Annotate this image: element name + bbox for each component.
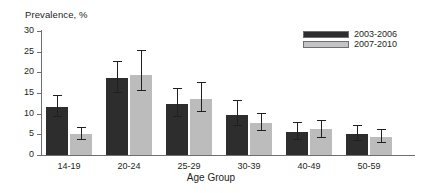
y-axis-tick-label: 25	[24, 46, 34, 56]
error-bar-stem	[57, 95, 58, 117]
error-bar-stem	[297, 122, 298, 140]
y-axis-tick: 20	[0, 72, 41, 73]
error-bar-cap-upper	[53, 95, 62, 96]
error-bar-2007-2010-25-29	[190, 82, 212, 112]
x-axis-line	[41, 155, 415, 156]
error-bar-cap-upper	[293, 122, 302, 123]
plot-area	[41, 31, 416, 155]
error-bar-2007-2010-30-39	[250, 113, 272, 131]
error-bar-stem	[201, 82, 202, 112]
x-axis-label-14-19: 14-19	[39, 161, 99, 171]
error-bar-cap-upper	[233, 100, 242, 101]
error-bar-cap-upper	[77, 127, 86, 128]
error-bar-stem	[321, 120, 322, 138]
error-bar-2003-2006-14-19	[46, 95, 68, 117]
error-bar-cap-upper	[113, 61, 122, 62]
legend-label-series-1: 2003-2006	[354, 29, 397, 39]
y-axis-tick: 30	[0, 31, 41, 32]
error-bar-2007-2010-40-49	[310, 120, 332, 138]
error-bar-2007-2010-20-24	[130, 50, 152, 91]
error-bar-2007-2010-14-19	[70, 127, 92, 139]
error-bar-cap-lower	[317, 137, 326, 138]
error-bar-cap-upper	[173, 88, 182, 89]
legend-swatch-series-2	[303, 41, 349, 48]
error-bar-2003-2006-25-29	[166, 88, 188, 117]
error-bar-cap-upper	[197, 82, 206, 83]
error-bar-cap-lower	[197, 111, 206, 112]
error-bar-cap-lower	[353, 140, 362, 141]
x-axis-label-50-59: 50-59	[339, 161, 399, 171]
error-bar-cap-lower	[377, 142, 386, 143]
error-bar-2003-2006-40-49	[286, 122, 308, 140]
error-bar-cap-lower	[173, 116, 182, 117]
legend-swatch-series-1	[303, 31, 349, 38]
y-axis-tick-label: 30	[24, 25, 34, 35]
x-axis-title: Age Group	[0, 172, 436, 183]
x-axis-label-25-29: 25-29	[159, 161, 219, 171]
error-bar-cap-upper	[353, 125, 362, 126]
y-axis-tick-label: 10	[24, 108, 34, 118]
error-bar-stem	[381, 129, 382, 143]
y-axis-tick-label: 0	[29, 149, 34, 159]
y-axis-tick: 15	[0, 93, 41, 94]
y-axis-tick-label: 15	[24, 87, 34, 97]
x-axis-title-text: Age Group	[187, 172, 235, 183]
error-bar-cap-lower	[137, 90, 146, 91]
legend-label-series-2: 2007-2010	[354, 39, 397, 49]
error-bar-cap-lower	[293, 139, 302, 140]
error-bar-cap-upper	[257, 113, 266, 114]
x-axis-label-40-49: 40-49	[279, 161, 339, 171]
error-bar-stem	[261, 113, 262, 131]
y-axis-tick: 5	[0, 134, 41, 135]
error-bar-stem	[141, 50, 142, 91]
y-axis-tick-label: 5	[29, 128, 34, 138]
error-bar-cap-upper	[377, 129, 386, 130]
error-bar-2003-2006-50-59	[346, 125, 368, 142]
y-axis-tick: 25	[0, 52, 41, 53]
error-bar-cap-upper	[137, 50, 146, 51]
error-bar-stem	[117, 61, 118, 93]
error-bar-cap-lower	[77, 139, 86, 140]
error-bar-2007-2010-50-59	[370, 129, 392, 143]
error-bar-cap-lower	[53, 116, 62, 117]
error-bar-stem	[177, 88, 178, 117]
error-bar-stem	[237, 100, 238, 126]
error-bar-cap-upper	[317, 120, 326, 121]
y-axis-tick: 10	[0, 114, 41, 115]
y-axis-title: Prevalence, %	[25, 9, 88, 20]
error-bar-stem	[357, 125, 358, 142]
error-bar-cap-lower	[233, 125, 242, 126]
y-axis-tick-label: 20	[24, 66, 34, 76]
prevalence-by-age-group-bar-chart: Prevalence, % 051015202530 14-1920-2425-…	[0, 0, 436, 193]
y-axis-tick: 0	[0, 155, 41, 156]
error-bar-2003-2006-30-39	[226, 100, 248, 126]
error-bar-cap-lower	[113, 92, 122, 93]
x-axis-label-30-39: 30-39	[219, 161, 279, 171]
y-axis-tick-mark	[37, 155, 41, 156]
error-bar-cap-lower	[257, 130, 266, 131]
error-bar-2003-2006-20-24	[106, 61, 128, 93]
x-axis-label-20-24: 20-24	[99, 161, 159, 171]
